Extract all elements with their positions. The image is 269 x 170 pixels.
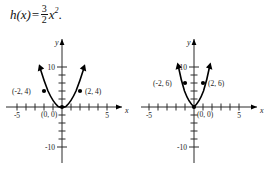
x-axis-label: x: [259, 106, 264, 115]
formula-lhs: h(x): [10, 7, 31, 22]
x-tick-label-neg5: -5: [14, 111, 20, 120]
point-label-origin: (0, 0): [41, 110, 58, 119]
data-point: [42, 89, 46, 93]
point-label-right: (2, 4): [85, 87, 102, 96]
x-tick-label-pos5: 5: [105, 111, 109, 120]
chart-left-svg: (-2, 4) (2, 4) (0, 0) -5 5 10 -10 x y: [0, 25, 134, 170]
data-point: [183, 81, 187, 85]
point-label-left: (-2, 4): [12, 87, 31, 96]
x-tick-label-neg5: -5: [146, 111, 152, 120]
formula-numerator: 3: [41, 4, 48, 14]
formula-denominator: 2: [41, 14, 48, 25]
y-tick-label-pos10: 10: [48, 63, 56, 72]
formula-equals: =: [31, 7, 40, 22]
chart-right-svg: (-2, 6) (2, 6) (0, 0) -5 5 10 -10 x y: [135, 25, 269, 170]
point-label-left: (-2, 6): [153, 79, 172, 88]
y-axis-label: y: [54, 38, 59, 47]
chart-stretched-parabola: (-2, 6) (2, 6) (0, 0) -5 5 10 -10 x y: [135, 25, 269, 170]
data-point: [78, 89, 82, 93]
data-point: [60, 105, 64, 109]
formula-trailing-period: .: [59, 7, 62, 22]
x-axis-arrow: [116, 105, 122, 110]
y-tick-label-pos10: 10: [180, 63, 188, 72]
formula-fraction: 32: [41, 4, 48, 25]
point-label-origin: (0, 0): [197, 110, 214, 119]
x-axis-label: x: [124, 106, 129, 115]
y-axis-label: y: [186, 38, 191, 47]
y-axis-arrow: [192, 39, 197, 45]
data-point: [201, 81, 205, 85]
x-tick-label-pos5: 5: [237, 111, 241, 120]
axes-left: [6, 39, 122, 163]
data-point: [192, 105, 196, 109]
y-axis-arrow: [60, 39, 65, 45]
point-label-right: (2, 6): [208, 79, 225, 88]
figure-root: h(x)=32x2.: [0, 0, 269, 170]
y-tick-label-neg10: -10: [177, 143, 187, 152]
y-tick-label-neg10: -10: [45, 143, 55, 152]
x-axis-arrow: [251, 105, 257, 110]
function-formula: h(x)=32x2.: [10, 4, 62, 25]
chart-parent-parabola: (-2, 4) (2, 4) (0, 0) -5 5 10 -10 x y: [0, 25, 134, 170]
